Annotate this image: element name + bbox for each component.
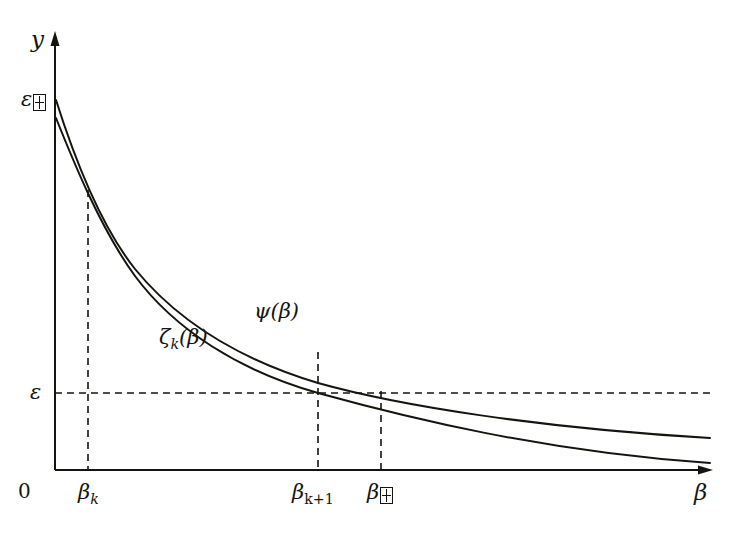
- y-axis-label: y: [31, 28, 44, 51]
- plot-area: [0, 0, 734, 535]
- epsilon-top-subscript-box: [33, 94, 46, 111]
- x-tick-label-beta-k: βk: [78, 482, 99, 506]
- origin-label: 0: [18, 481, 31, 501]
- zeta-glyph: ζ: [159, 325, 170, 349]
- beta-k-glyph: β: [78, 480, 90, 504]
- epsilon-top-glyph: ε: [21, 87, 32, 111]
- epsilon-top-label: ε: [21, 89, 46, 111]
- x-tick-label-beta-k-plus-1: βk+1: [292, 482, 334, 506]
- psi-argument: (β): [270, 299, 299, 323]
- beta-k-plus-1-glyph: β: [292, 480, 304, 504]
- curve-label-zeta-k: ζk(β): [159, 327, 208, 351]
- psi-glyph: ψ: [254, 299, 270, 323]
- beta-k-subscript: k: [90, 491, 99, 507]
- x-tick-label-beta-star: β: [367, 482, 393, 504]
- beta-star-glyph: β: [367, 480, 379, 504]
- zeta-argument: (β): [179, 325, 208, 349]
- curve-label-psi: ψ(β): [254, 301, 299, 322]
- x-axis: [55, 466, 713, 475]
- y-axis: [51, 31, 60, 470]
- zeta-subscript: k: [170, 336, 179, 352]
- x-axis-label: β: [694, 481, 707, 504]
- beta-k-plus-1-subscript: k+1: [304, 491, 334, 507]
- beta-star-subscript-box: [380, 487, 393, 504]
- curve-psi: [56, 100, 710, 438]
- figure-canvas: y β 0 ε ε βk βk+1 β ζk(β) ψ(β): [0, 0, 734, 535]
- epsilon-level-label: ε: [30, 382, 41, 403]
